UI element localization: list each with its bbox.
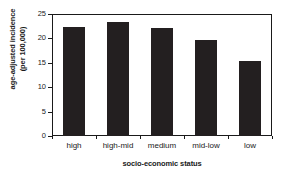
y-axis-tick-mark <box>48 87 52 88</box>
x-axis-tick-mark <box>184 136 185 139</box>
x-axis-tick-label: high-mid <box>96 141 140 151</box>
x-axis-tick-label: high <box>52 141 96 151</box>
x-axis-tick-marks <box>52 136 272 140</box>
y-axis-tick-labels: 0510152025 <box>26 0 46 180</box>
plot-frame <box>52 14 272 136</box>
y-axis-tick-label: 15 <box>26 59 46 67</box>
y-axis-tick-label: 25 <box>26 10 46 18</box>
y-axis-tick-mark <box>48 63 52 64</box>
y-axis-tick-mark <box>48 136 52 137</box>
x-axis-tick-mark <box>272 136 273 139</box>
y-axis-tick-label: 20 <box>26 34 46 42</box>
x-axis-tick-label: medium <box>140 141 184 151</box>
x-axis-tick-mark <box>52 136 53 139</box>
x-axis-tick-labels: highhigh-midmediummid-lowlow <box>52 141 272 151</box>
x-axis-tick-label: low <box>228 141 272 151</box>
y-axis-tick-mark <box>48 38 52 39</box>
x-axis-tick-mark <box>228 136 229 139</box>
y-axis-tick-label: 10 <box>26 83 46 91</box>
y-axis-title-line-1: age-adjusted incidence <box>8 9 18 90</box>
x-axis-tick-label: mid-low <box>184 141 228 151</box>
x-axis-tick-mark <box>140 136 141 139</box>
x-axis-title: socio-economic status <box>52 159 272 168</box>
y-axis-tick-label: 0 <box>26 132 46 140</box>
x-axis-tick-mark <box>96 136 97 139</box>
y-axis-tick-label: 5 <box>26 108 46 116</box>
y-axis-tick-mark <box>48 112 52 113</box>
y-axis-tick-mark <box>48 14 52 15</box>
bar-chart: age-adjusted incidence (per 100,000) 051… <box>0 0 286 180</box>
